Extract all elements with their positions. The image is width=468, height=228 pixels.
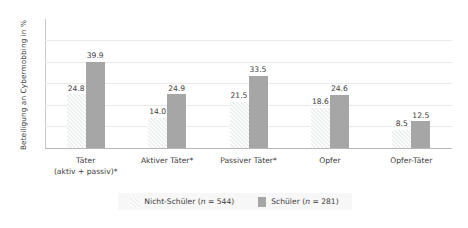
bar-nicht-sch-ler: [148, 118, 167, 148]
legend-swatch-light-icon: [131, 197, 139, 207]
chart-legend: Nicht-Schüler (n = 544) Schüler (n = 281…: [118, 193, 352, 210]
bar-value-label: 24.9: [164, 84, 190, 93]
legend-label-schueler: Schüler (n = 281): [271, 197, 338, 206]
legend-label-nicht-schueler: Nicht-Schüler (n = 544): [144, 197, 234, 206]
bar-value-label: 24.6: [326, 84, 352, 93]
bar-sch-ler: [411, 121, 430, 148]
plot-area: 24.839.914.024.921.533.518.624.68.512.5: [45, 40, 452, 148]
bar-group: 8.512.5: [392, 40, 430, 148]
bar-value-label: 39.9: [82, 51, 108, 60]
legend-item-schueler: Schüler (n = 281): [258, 197, 338, 207]
bar-group: 14.024.9: [148, 40, 186, 148]
bar-sch-ler: [330, 95, 349, 148]
bar-value-label: 33.5: [245, 65, 271, 74]
legend-swatch-dark-icon: [258, 197, 266, 207]
bar-nicht-sch-ler: [311, 108, 330, 148]
bar-sch-ler: [86, 62, 105, 148]
bar-group: 18.624.6: [311, 40, 349, 148]
bar-sch-ler: [167, 94, 186, 148]
gridline: [45, 148, 452, 149]
bar-nicht-sch-ler: [67, 94, 86, 148]
bar-nicht-sch-ler: [230, 102, 249, 148]
cybermobbing-bar-chart: Beteiligung an Cybermobbing in % 24.839.…: [0, 0, 468, 228]
x-tick-label: Opfer-Täter: [351, 155, 468, 166]
bar-value-label: 12.5: [408, 111, 434, 120]
y-axis-title: Beteiligung an Cybermobbing in %: [17, 12, 31, 158]
bar-sch-ler: [249, 76, 268, 148]
bar-group: 24.839.9: [67, 40, 105, 148]
bar-group: 21.533.5: [230, 40, 268, 148]
legend-item-nicht-schueler: Nicht-Schüler (n = 544): [131, 197, 234, 207]
bar-nicht-sch-ler: [392, 130, 411, 148]
